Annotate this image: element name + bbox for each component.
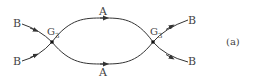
diagram-canvas <box>0 0 256 78</box>
label-incoming-b-bottom: B <box>13 56 21 67</box>
internal-line-bottom <box>52 42 153 64</box>
label-vertex-right: G3 <box>150 27 162 40</box>
label-outgoing-b-bottom: B <box>188 56 196 67</box>
outgoing-line-bottom <box>153 42 188 62</box>
incoming-line-bottom <box>22 42 52 61</box>
label-outgoing-b-top: B <box>188 15 196 26</box>
figure-caption: (a) <box>226 37 240 47</box>
vertex-right <box>151 40 155 44</box>
internal-line-top <box>52 18 153 42</box>
label-internal-a-bottom: A <box>99 67 107 78</box>
label-incoming-b-top: B <box>13 18 21 29</box>
vertex-left <box>50 40 54 44</box>
label-internal-a-top: A <box>99 6 107 17</box>
label-vertex-left: G3 <box>47 27 59 40</box>
